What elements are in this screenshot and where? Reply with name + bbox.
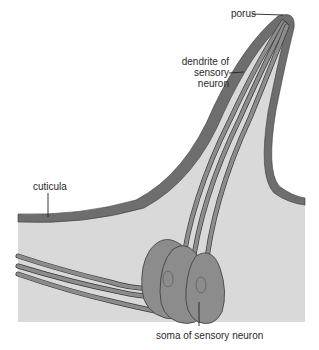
nucleus-2 — [196, 277, 206, 293]
sensillum-diagram — [0, 0, 319, 350]
soma-label: soma of sensory neuron — [156, 330, 263, 341]
dendrite-label-line1: dendrite of — [163, 56, 229, 67]
nucleus-1 — [163, 271, 173, 287]
porus-label: porus — [231, 8, 256, 19]
dendrite-label-line3: neuron — [163, 78, 229, 89]
cuticula-label: cuticula — [33, 181, 67, 192]
dendrite-label: dendrite of sensory neuron — [163, 56, 229, 89]
dendrite-label-line2: sensory — [163, 67, 229, 78]
